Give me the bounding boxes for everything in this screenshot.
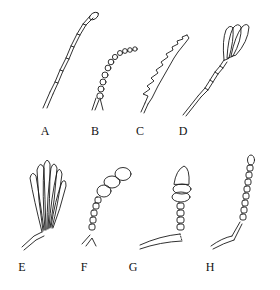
antenna-e-drawing [22,160,66,250]
panel-label-d: D [179,124,188,139]
antenna-b-drawing [92,47,137,110]
antenna-figure: A B C D E F G H [0,0,280,290]
antenna-h-drawing [211,155,255,249]
antenna-c-drawing [141,35,189,113]
panel-label-b: B [91,124,99,139]
panel-label-f: F [81,260,88,275]
antenna-g-drawing [140,166,191,249]
antenna-a-drawing [43,11,100,108]
panel-label-g: G [129,260,138,275]
panel-label-h: H [206,260,215,275]
antenna-d-drawing [183,25,249,117]
antenna-f-drawing [82,168,131,247]
panel-label-e: E [18,260,25,275]
panel-label-a: A [41,124,50,139]
panel-label-c: C [136,124,144,139]
